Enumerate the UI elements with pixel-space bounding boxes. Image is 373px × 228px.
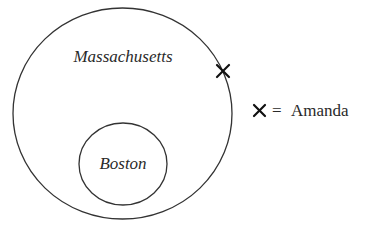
massachusetts-circle bbox=[13, 8, 232, 219]
massachusetts-label: Massachusetts bbox=[72, 47, 173, 66]
legend-label: Amanda bbox=[291, 101, 349, 120]
legend-x-icon bbox=[254, 105, 265, 116]
legend: = Amanda bbox=[254, 101, 349, 120]
boston-label: Boston bbox=[99, 154, 146, 173]
legend-equals: = bbox=[272, 101, 282, 120]
amanda-marker-icon bbox=[217, 65, 229, 77]
venn-diagram: Massachusetts Boston = Amanda bbox=[0, 0, 373, 228]
